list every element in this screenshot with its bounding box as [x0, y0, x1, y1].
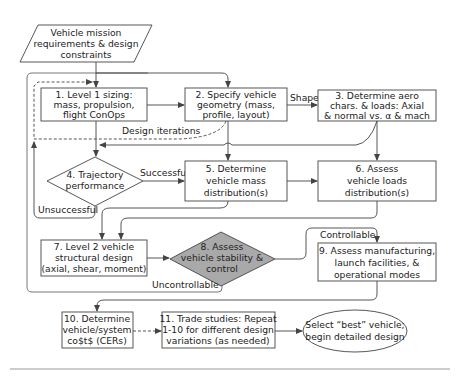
edge-label-controllable: Controllable	[320, 229, 376, 240]
node-1-line: flight ConOps	[63, 109, 125, 120]
edge-label-uncontrollable: Uncontrollable	[152, 279, 219, 290]
node-6-line: distribution(s)	[345, 187, 409, 198]
node-5-line: distribution(s)	[204, 187, 268, 198]
node-10-line: vehicle/system	[62, 324, 131, 335]
node-7-line: structural design	[55, 252, 133, 263]
edge-label-design-iterations: Design iterations	[122, 125, 200, 136]
end-node-line: begin detailed design	[305, 331, 404, 342]
node-7-line: (axial, shear, moment)	[42, 263, 147, 274]
edge-label-shape: Shape	[290, 92, 319, 103]
node-3-line: & normal vs. α & mach	[324, 110, 430, 121]
node-8-stability-control: 8. Assess vehicle stability & control	[170, 232, 275, 286]
node-8-line: vehicle stability &	[181, 252, 263, 263]
node-10-cost-estimation: 10. Determine vehicle/system co$t$ (CERs…	[62, 312, 133, 348]
node-8-line: 8. Assess	[201, 241, 244, 252]
node-2-line: profile, layout)	[202, 109, 269, 120]
edge-label-successful: Successful	[140, 167, 189, 178]
node-4-trajectory-performance: 4. Trajectory performance	[47, 157, 143, 206]
node-4-line: performance	[66, 180, 125, 191]
edge-9-to-10	[97, 281, 377, 311]
node-5-line: vehicle mass	[206, 175, 266, 186]
node-11-line: 1-10 for different design	[162, 324, 274, 335]
node-7-structural-design: 7. Level 2 vehicle structural design (ax…	[41, 240, 147, 276]
end-node-line: Select “best” vehicle;	[305, 319, 404, 330]
node-5-mass-distribution: 5. Determine vehicle mass distribution(s…	[185, 161, 287, 201]
node-7-line: 7. Level 2 vehicle	[54, 241, 135, 252]
start-node-line: requirements & design	[34, 38, 139, 49]
start-node-mission-requirements: Vehicle mission requirements & design co…	[20, 25, 152, 62]
node-1-level1-sizing: 1. Level 1 sizing: mass, propulsion, fli…	[41, 88, 147, 121]
edge-label-unsuccessful: Unsuccessful	[38, 204, 98, 215]
node-9-line: launch facilities, &	[335, 257, 420, 268]
node-10-line: co$t$ (CERs)	[67, 335, 126, 346]
node-9-line: 9. Assess manufacturing,	[319, 245, 435, 256]
node-6-line: 6. Assess	[356, 163, 399, 174]
end-node-select-best-vehicle: Select “best” vehicle; begin detailed de…	[303, 310, 407, 352]
node-6-loads-distribution: 6. Assess vehicle loads distribution(s)	[318, 161, 436, 201]
node-11-trade-studies: 11. Trade studies: Repeat 1-10 for diffe…	[160, 312, 277, 348]
node-5-line: 5. Determine	[206, 163, 267, 174]
start-node-line: Vehicle mission	[51, 27, 122, 38]
node-6-line: vehicle loads	[347, 175, 407, 186]
node-9-manufacturing-ops: 9. Assess manufacturing, launch faciliti…	[318, 243, 436, 281]
node-11-line: variations (as needed)	[166, 335, 269, 346]
start-node-line: constraints	[60, 49, 111, 60]
node-2-specify-geometry: 2. Specify vehicle geometry (mass, profi…	[185, 88, 287, 121]
node-10-line: 10. Determine	[64, 313, 130, 324]
design-process-flowchart: Vehicle mission requirements & design co…	[0, 0, 461, 381]
node-8-line: control	[206, 263, 238, 274]
node-3-aero-characteristics: 3. Determine aero chars. & loads: Axial …	[318, 90, 436, 121]
node-9-line: operational modes	[334, 269, 420, 280]
node-4-line: 4. Trajectory	[66, 169, 124, 180]
edge-loop-to-2	[96, 73, 228, 87]
node-11-line: 11. Trade studies: Repeat	[160, 313, 277, 324]
